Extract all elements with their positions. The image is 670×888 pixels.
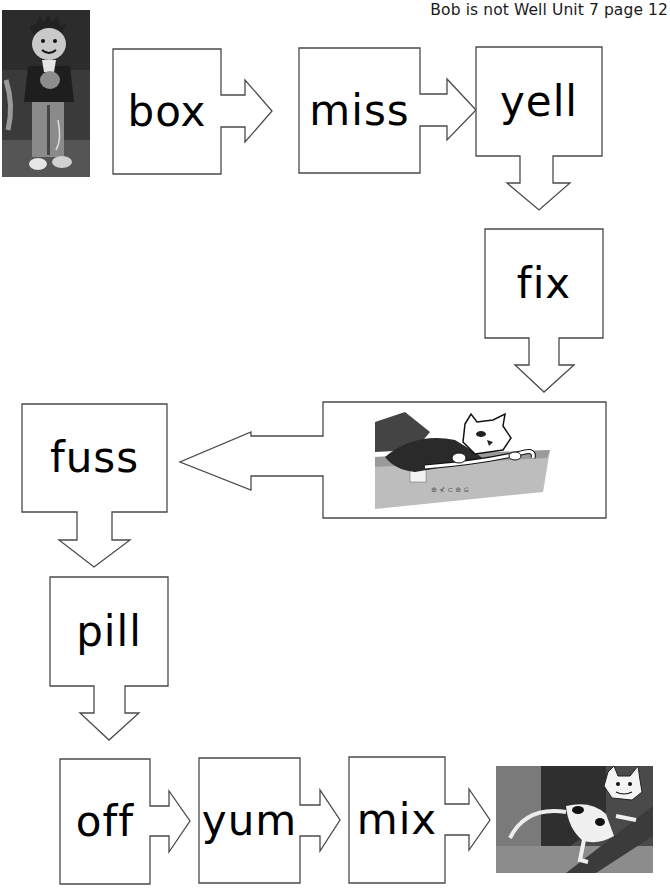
word-card-fix: fix [485, 229, 603, 338]
worksheet-page: Bob is not Well Unit 7 page 12 box miss … [0, 0, 670, 888]
word-card-mix: mix [349, 757, 445, 883]
word-card-off: off [60, 759, 150, 884]
word-card-yell: yell [476, 47, 602, 156]
boy-with-cat-picture [2, 10, 90, 177]
word-card-yum: yum [199, 758, 300, 883]
word-card-pill: pill [50, 577, 168, 686]
word-card-box: box [113, 49, 221, 174]
cat-in-tree-picture [496, 766, 653, 873]
cat-in-box-picture: ⊕ ⊀ ⊂ ⊕ ⊆ [375, 412, 559, 509]
svg-text:⊕ ⊀ ⊂ ⊕ ⊆: ⊕ ⊀ ⊂ ⊕ ⊆ [431, 486, 469, 494]
word-card-miss: miss [299, 48, 420, 173]
word-card-fuss: fuss [22, 404, 167, 512]
